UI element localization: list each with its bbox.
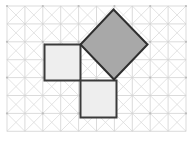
figure-root: Pythagorean theorem squares on a diagona… [0,0,194,146]
grid-vertex-dot [185,5,187,7]
grid-vertex-dot [6,112,8,114]
grid-vertex-dot [149,41,151,43]
grid-vertex-dot [42,5,44,7]
grid-vertex-dot [185,77,187,79]
grid-vertex-dot [6,41,8,43]
grid-vertex-dot [185,41,187,43]
grid-vertex-dot [149,77,151,79]
grid-vertex-dot [6,77,8,79]
leg-square-left [45,45,81,81]
leg-square-bottom [81,81,117,118]
grid-vertex-dot [149,5,151,7]
geometry-diagram: Pythagorean theorem squares on a diagona… [0,0,194,146]
grid-vertex-dot [42,41,44,43]
grid-vertex-dot [185,112,187,114]
grid-vertex-dot [6,5,8,7]
grid-vertex-dot [78,5,80,7]
grid-vertex-dot [78,112,80,114]
grid-vertex-dot [42,112,44,114]
grid-vertex-dot [113,5,115,7]
grid-vertex-dot [149,112,151,114]
grid-vertex-dot [78,41,80,43]
